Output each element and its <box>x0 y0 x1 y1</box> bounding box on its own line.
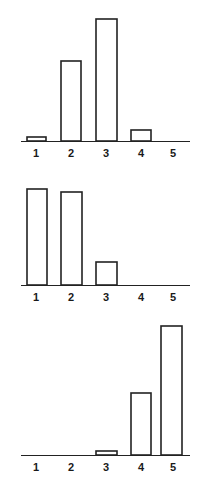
bar-middle-1 <box>27 189 47 285</box>
tick-label-bottom-1: 1 <box>33 461 39 473</box>
histogram-panel-middle: 1 2 3 4 5 <box>0 165 201 320</box>
bars-group-bottom <box>96 326 182 455</box>
tick-label-middle-3: 3 <box>103 291 109 303</box>
histogram-top-svg: 1 2 3 4 5 <box>0 0 201 165</box>
tick-labels-middle: 1 2 3 4 5 <box>33 291 176 303</box>
tick-label-middle-5: 5 <box>170 291 176 303</box>
bar-middle-3 <box>96 262 117 285</box>
tick-labels-top: 1 2 3 4 5 <box>33 147 176 159</box>
bar-bottom-5 <box>161 326 182 455</box>
bar-middle-2 <box>61 192 82 285</box>
bar-bottom-3 <box>96 451 117 455</box>
tick-label-top-2: 2 <box>68 147 74 159</box>
histogram-panel-bottom: 1 2 3 4 5 <box>0 320 201 486</box>
tick-label-top-5: 5 <box>170 147 176 159</box>
tick-label-bottom-3: 3 <box>103 461 109 473</box>
bars-group-middle <box>27 189 117 285</box>
tick-label-top-3: 3 <box>103 147 109 159</box>
histogram-middle-svg: 1 2 3 4 5 <box>0 165 201 320</box>
bar-top-1 <box>27 137 46 141</box>
bar-bottom-4 <box>131 393 151 455</box>
histogram-bottom-svg: 1 2 3 4 5 <box>0 320 201 486</box>
tick-label-middle-4: 4 <box>138 291 145 303</box>
tick-label-middle-2: 2 <box>68 291 74 303</box>
tick-label-top-4: 4 <box>138 147 145 159</box>
tick-labels-bottom: 1 2 3 4 5 <box>33 461 176 473</box>
bar-top-3 <box>96 19 117 141</box>
bar-top-4 <box>131 130 151 141</box>
histogram-figure: 1 2 3 4 5 1 2 3 4 5 <box>0 0 201 486</box>
tick-label-bottom-2: 2 <box>68 461 74 473</box>
histogram-panel-top: 1 2 3 4 5 <box>0 0 201 165</box>
tick-label-top-1: 1 <box>33 147 39 159</box>
bars-group-top <box>27 19 151 141</box>
bar-top-2 <box>61 61 81 141</box>
tick-label-middle-1: 1 <box>33 291 39 303</box>
tick-label-bottom-5: 5 <box>170 461 176 473</box>
tick-label-bottom-4: 4 <box>138 461 145 473</box>
